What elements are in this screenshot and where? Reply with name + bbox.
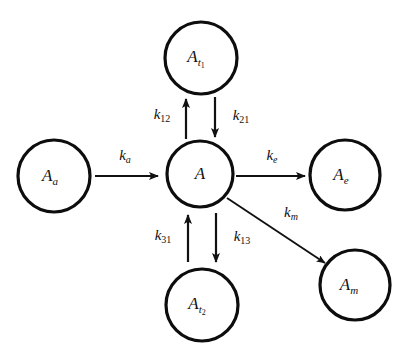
edge-label-k-e: ke [266,147,278,165]
edge-k-m-arrow [227,198,325,263]
edge-label-k-13: k13 [234,228,251,246]
node-A-t2[interactable]: At2 [166,269,238,341]
edge-label-k-a: ka [119,147,131,165]
edge-label-k-m: km [284,204,298,222]
node-A-t1-circle[interactable] [165,22,237,94]
node-A-t2-circle[interactable] [166,269,238,341]
node-A-m[interactable]: Am [320,250,390,320]
node-A-t1[interactable]: At1 [165,22,237,94]
node-A-label: A [194,164,206,183]
kinetic-model-diagram: Aa A At1 At2 Ae Am ka ke km [0,0,406,356]
edge-label-k-12: k12 [154,106,171,124]
node-A-a[interactable]: Aa [18,140,90,212]
node-A-e[interactable]: Ae [310,140,380,210]
diagram-canvas: Aa A At1 At2 Ae Am ka ke km [0,0,406,356]
edge-label-k-21: k21 [233,107,250,125]
edge-label-k-31: k31 [155,227,172,245]
node-A[interactable]: A [167,141,233,207]
